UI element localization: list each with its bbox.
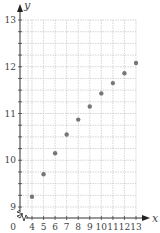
data-point [53,151,57,155]
data-points [30,61,138,199]
y-tick-label: 11 [5,109,16,119]
y-tick-label: 13 [5,15,17,25]
x-tick-label: 11 [107,222,118,232]
x-tick-label: 6 [52,222,58,232]
y-tick-label: 9 [10,202,16,212]
y-axis-label: y [23,0,31,12]
data-point [30,195,34,199]
x-tick-label: 9 [87,222,93,232]
data-point [134,61,138,65]
x-tick-label: 10 [96,222,108,232]
x-tick-label: 12 [119,222,130,232]
x-tick-label: 13 [130,222,142,232]
data-point [88,104,92,108]
data-point [41,172,45,176]
data-point [122,71,126,75]
data-point [99,91,103,95]
scatter-chart: 456789101112139101112130xy [0,0,160,233]
x-axis-label: x [152,212,159,225]
data-point [76,117,80,121]
x-tick-label: 7 [64,222,70,232]
y-tick-label: 12 [5,62,16,72]
axes [17,4,150,221]
data-point [111,81,115,85]
x-axis-arrow-icon [142,215,150,221]
y-tick-label: 10 [5,155,17,165]
x-tick-label: 4 [29,222,35,232]
data-point [64,132,68,136]
x-tick-label: 8 [75,222,81,232]
y-axis-arrow-icon [17,4,23,12]
origin-label: 0 [10,222,16,232]
x-tick-label: 5 [41,222,47,232]
